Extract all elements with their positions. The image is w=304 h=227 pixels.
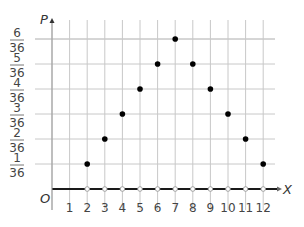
x-tick-label: 11 [238,201,253,215]
y-tick-denominator: 36 [9,91,24,105]
x-tick-label: 12 [256,201,271,215]
data-point [84,161,90,167]
axis-open-point [191,187,196,192]
axis-open-point [103,187,108,192]
x-tick-label: 9 [207,201,215,215]
y-tick-denominator: 36 [9,66,24,80]
y-axis-label: P [40,12,48,27]
axis-open-point [226,187,231,192]
y-tick-numerator: 6 [13,26,21,40]
x-tick-label: 5 [136,201,144,215]
y-tick-denominator: 36 [9,166,24,180]
y-tick-denominator: 36 [9,41,24,55]
y-tick-denominator: 36 [9,116,24,130]
x-tick-label: 3 [101,201,109,215]
data-point [260,161,266,167]
x-tick-label: 6 [154,201,162,215]
data-point [172,36,178,42]
axis-open-point [155,187,160,192]
x-tick-label: 7 [171,201,179,215]
probability-distribution-chart: 136236336436536636 123456789101112 P X O [0,0,304,227]
data-point [208,86,214,92]
x-tick-labels: 123456789101112 [66,201,271,215]
x-tick-label: 1 [66,201,74,215]
axis-open-point [138,187,143,192]
axis-open-point [120,187,125,192]
axis-open-point [173,187,178,192]
data-point [243,136,249,142]
y-tick-labels: 136236336436536636 [9,26,24,180]
axis-open-point [85,187,90,192]
x-axis-label: X [282,182,293,197]
x-tick-label: 8 [189,201,197,215]
x-tick-label: 2 [83,201,91,215]
data-point [102,136,108,142]
data-point [137,86,143,92]
data-point [225,111,231,117]
data-point [190,61,196,67]
y-tick-denominator: 36 [9,141,24,155]
origin-label: O [40,191,50,206]
x-axis-arrow-icon [277,187,282,192]
x-tick-label: 4 [119,201,127,215]
axis-open-point [243,187,248,192]
axis-open-point [261,187,266,192]
y-axis-arrow-icon [50,18,55,23]
data-point [120,111,126,117]
data-point [155,61,161,67]
grid [35,20,275,210]
x-tick-label: 10 [220,201,235,215]
axis-open-point [208,187,213,192]
